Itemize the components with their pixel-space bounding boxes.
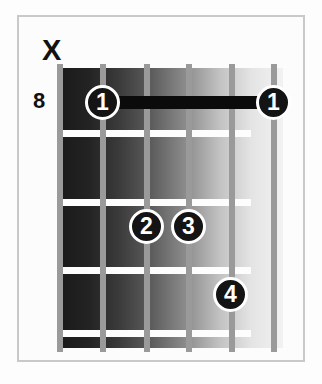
fret-position-label: 8 [33,90,45,112]
finger-marker-1b[interactable]: 1 [256,85,291,120]
fret-line-3 [57,267,251,274]
diagram-frame: X 8 1 1 2 3 4 [17,15,305,362]
fret-line-4 [57,330,251,337]
chord-diagram-page: X 8 1 1 2 3 4 [0,0,322,384]
mute-marker-x: X [42,36,61,65]
fret-line-2 [57,199,251,206]
finger-marker-1a[interactable]: 1 [85,85,120,120]
fretboard: 1 1 2 3 4 [57,68,283,348]
finger-marker-2[interactable]: 2 [129,209,164,244]
finger-marker-4[interactable]: 4 [213,277,248,312]
fret-line-1 [57,130,251,137]
finger-marker-3[interactable]: 3 [171,209,206,244]
barre-bar [103,96,275,109]
string-6 [57,64,63,352]
